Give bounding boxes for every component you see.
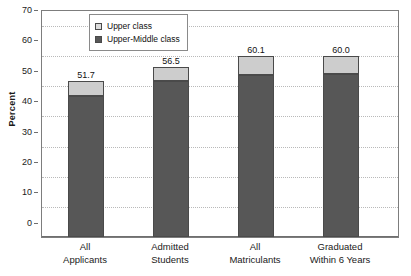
- y-axis-title: Percent: [7, 79, 17, 139]
- legend-item-upper-middle-class[interactable]: Upper-Middle class: [95, 33, 180, 45]
- legend-swatch-icon: [95, 36, 102, 43]
- y-tick-mark: [34, 192, 38, 193]
- bar-value-label: 56.5: [141, 57, 201, 66]
- legend-item-label: Upper class: [107, 22, 152, 31]
- bar-segment-upper-middle-class[interactable]: [153, 81, 189, 237]
- bar-value-label: 60.1: [226, 46, 286, 55]
- chart-legend[interactable]: Upper class Upper-Middle class: [89, 14, 188, 51]
- y-tick-mark: [34, 162, 38, 163]
- x-axis: All Applicants Admitted Students All Mat…: [41, 241, 399, 275]
- bar-group[interactable]: 60.1: [238, 56, 274, 237]
- bar-segment-upper-class[interactable]: [238, 56, 274, 75]
- y-tick-mark: [34, 132, 38, 133]
- y-tick-label: 60: [22, 36, 32, 45]
- y-tick-label: 30: [22, 127, 32, 136]
- stacked-bar-chart: 70 60 50 40 30 20 10 0 Percent 51.7: [0, 0, 411, 276]
- x-axis-category-graduated-within-6-years: Graduated Within 6 Years: [290, 241, 390, 266]
- bar-segment-upper-middle-class[interactable]: [238, 75, 274, 237]
- y-tick-mark: [34, 10, 38, 11]
- bar-group[interactable]: 60.0: [323, 56, 359, 237]
- legend-swatch-icon: [95, 23, 102, 30]
- bar-group[interactable]: 56.5: [153, 67, 189, 237]
- y-tick-mark: [34, 101, 38, 102]
- bar-segment-upper-middle-class[interactable]: [68, 96, 104, 237]
- y-axis: 70 60 50 40 30 20 10 0: [0, 10, 38, 238]
- y-tick-label: 70: [22, 6, 32, 15]
- y-tick-mark: [34, 71, 38, 72]
- y-tick-mark: [34, 40, 38, 41]
- y-tick-mark: [34, 223, 38, 224]
- bar-segment-upper-middle-class[interactable]: [323, 74, 359, 237]
- x-axis-category-line: Within 6 Years: [290, 254, 390, 267]
- bar-group[interactable]: 51.7: [68, 81, 104, 237]
- y-tick-label: 20: [22, 158, 32, 167]
- bar-segment-upper-class[interactable]: [153, 67, 189, 81]
- bar-value-label: 51.7: [56, 71, 116, 80]
- bar-segment-upper-class[interactable]: [323, 56, 359, 73]
- legend-item-upper-class[interactable]: Upper class: [95, 20, 180, 32]
- bar-segment-upper-class[interactable]: [68, 81, 104, 96]
- y-tick-label: 10: [22, 188, 32, 197]
- y-tick-label: 0: [27, 218, 32, 227]
- legend-item-label: Upper-Middle class: [107, 35, 180, 44]
- y-tick-label: 40: [22, 97, 32, 106]
- y-tick-label: 50: [22, 66, 32, 75]
- x-axis-category-line: Graduated: [290, 241, 390, 254]
- bar-value-label: 60.0: [311, 46, 371, 55]
